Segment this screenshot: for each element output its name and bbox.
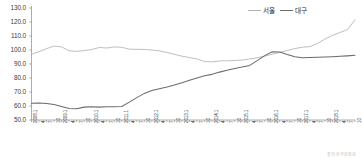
legend-swatch-seoul [248, 10, 261, 11]
y-axis-tick-label: 130.0 [0, 4, 26, 11]
x-axis-tick-label: 10 [116, 119, 121, 124]
y-axis-tick-label: 70.0 [0, 88, 26, 95]
y-axis-tick-label: 120.0 [0, 18, 26, 25]
x-axis-tick-label: 10 [56, 119, 61, 124]
x-axis-tick-label: 2008.1 [33, 110, 38, 123]
x-axis-tick-label: 10 [327, 119, 332, 124]
axis-group [32, 6, 356, 120]
legend-label-daegu: 대구 [295, 7, 307, 14]
chart-legend: 서울 대구 [248, 7, 307, 14]
x-axis-tick-label: 10 [357, 119, 362, 124]
legend-item-daegu[interactable]: 대구 [280, 7, 307, 14]
y-axis-tick-label: 60.0 [0, 102, 26, 109]
y-axis-tick-label: 110.0 [0, 32, 26, 39]
source-note: 출처: 한국감정원 [327, 151, 356, 157]
legend-label-seoul: 서울 [263, 7, 275, 14]
x-axis-tick-label: 2013.1 [184, 110, 189, 123]
legend-swatch-daegu [280, 10, 293, 11]
x-axis-tick-label: 2014.1 [214, 110, 219, 123]
x-axis-tick-label: 2009.1 [63, 110, 68, 123]
x-axis-tick-label: 2016.1 [274, 110, 279, 123]
y-axis-tick-label: 50.0 [0, 116, 26, 123]
series-line-daegu [32, 52, 356, 109]
x-axis-tick-label: 10 [267, 119, 272, 124]
x-axis-tick-label: 10 [86, 119, 91, 124]
legend-item-seoul[interactable]: 서울 [248, 7, 275, 14]
y-axis-tick-label: 80.0 [0, 74, 26, 81]
x-axis-tick-label: 2018.1 [334, 110, 339, 123]
x-axis-tick-label: 10 [297, 119, 302, 124]
x-axis-tick-label: 2015.1 [244, 110, 249, 123]
x-axis-tick-label: 10 [176, 119, 181, 124]
x-axis-tick-label: 2012.1 [154, 110, 159, 123]
x-axis-tick-label: 10 [146, 119, 151, 124]
x-axis-tick-label: 2011.1 [124, 111, 129, 124]
x-axis-tick-label: 2017.1 [304, 110, 309, 123]
x-axis-tick-label: 10 [237, 119, 242, 124]
y-axis-tick-label: 90.0 [0, 60, 26, 67]
series-line-seoul [32, 20, 356, 62]
x-axis-tick-label: 10 [206, 119, 211, 124]
x-axis-tick-label: 2010.1 [94, 110, 99, 123]
y-axis-tick-label: 100.0 [0, 46, 26, 53]
series-lines [32, 20, 356, 109]
